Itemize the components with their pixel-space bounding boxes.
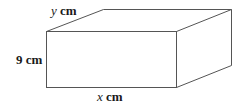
height-label: 9 cm	[16, 53, 42, 66]
top-right-edge	[177, 10, 232, 32]
depth-variable: y	[51, 3, 57, 18]
front-face	[47, 32, 177, 88]
depth-label: y cm	[51, 4, 77, 17]
prism-diagram: y cm 9 cm x cm	[0, 0, 243, 104]
height-value: 9	[16, 52, 23, 67]
depth-unit: cm	[60, 3, 77, 18]
height-unit: cm	[26, 52, 43, 67]
width-label: x cm	[97, 90, 123, 103]
width-unit: cm	[106, 89, 123, 104]
width-variable: x	[97, 89, 103, 104]
bottom-right-edge	[177, 66, 232, 88]
